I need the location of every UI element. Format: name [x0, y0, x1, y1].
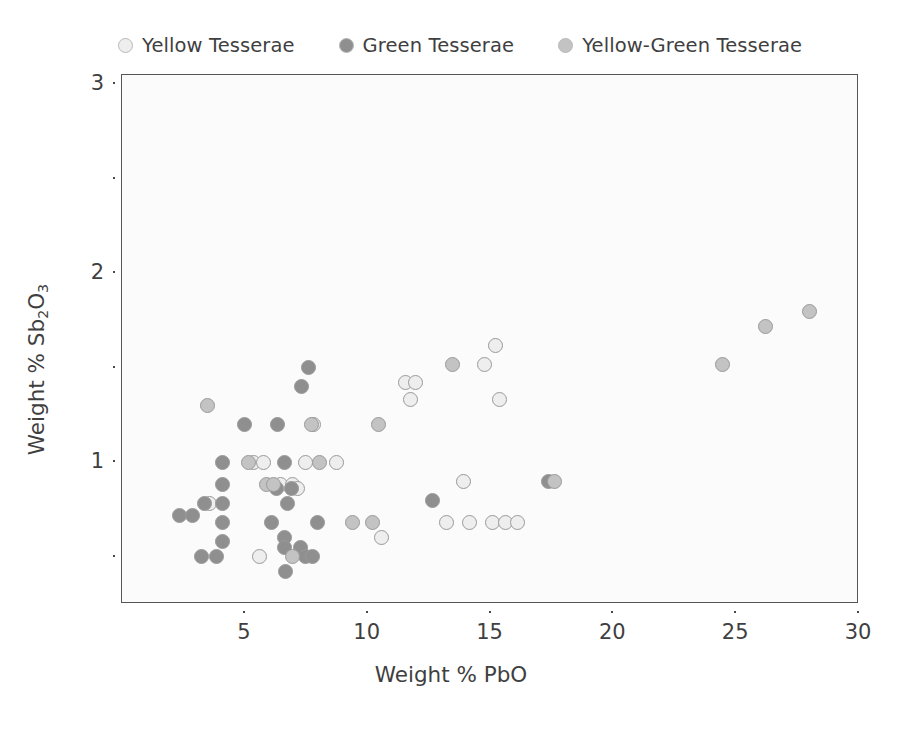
data-point [301, 360, 316, 375]
x-axis-tick-label: 15 [476, 620, 503, 644]
data-point [270, 417, 285, 432]
data-point [264, 515, 279, 530]
x-axis-tick-label: 20 [599, 620, 626, 644]
data-point [456, 474, 471, 489]
data-point [802, 304, 817, 319]
data-point [758, 319, 773, 334]
x-axis-tick-label: 5 [237, 620, 250, 644]
data-point [425, 493, 440, 508]
legend-label: Yellow Tesserae [142, 34, 295, 57]
x-axis-tick [243, 611, 245, 613]
data-point [266, 477, 281, 492]
data-point [185, 508, 200, 523]
chart-legend: Yellow TesseraeGreen TesseraeYellow-Gree… [118, 28, 818, 62]
x-axis-tick [489, 611, 491, 613]
data-point [194, 549, 209, 564]
data-point [241, 455, 256, 470]
data-point [285, 549, 300, 564]
data-point [310, 515, 325, 530]
data-point [547, 474, 562, 489]
legend-marker-icon [558, 38, 573, 53]
legend-entry[interactable]: Green Tesserae [339, 34, 515, 57]
legend-marker-icon [118, 38, 133, 53]
y-axis-tick-label: 3 [91, 71, 104, 95]
data-point [215, 455, 230, 470]
y-axis-tick [113, 177, 115, 179]
x-axis-label: Weight % PbO [0, 662, 902, 687]
scatter-chart-figure: Yellow TesseraeGreen TesseraeYellow-Gree… [0, 0, 902, 738]
x-axis-tick-label: 10 [353, 620, 380, 644]
legend-label: Green Tesserae [363, 34, 515, 57]
data-point [278, 564, 293, 579]
y-axis-tick [113, 366, 115, 368]
y-axis-tick [113, 460, 115, 462]
x-axis-tick-label: 30 [845, 620, 872, 644]
data-point [277, 455, 292, 470]
data-point [408, 375, 423, 390]
data-point [312, 455, 327, 470]
plot-area [122, 75, 857, 602]
y-axis-tick [113, 555, 115, 557]
data-point [477, 357, 492, 372]
data-point [215, 477, 230, 492]
legend-marker-icon [339, 38, 354, 53]
data-point [371, 417, 386, 432]
x-axis-tick [366, 611, 368, 613]
y-axis-tick-label: 1 [91, 449, 104, 473]
legend-label: Yellow-Green Tesserae [582, 34, 802, 57]
data-point [305, 549, 320, 564]
y-axis-label: Weight % Sb2O3 [25, 283, 50, 454]
y-axis-label-wrapper: Weight % Sb2O3 [22, 0, 52, 738]
data-point [445, 357, 460, 372]
x-axis-tick [857, 611, 859, 613]
legend-entry[interactable]: Yellow-Green Tesserae [558, 34, 802, 57]
data-point [237, 417, 252, 432]
x-axis-tick-label: 25 [722, 620, 749, 644]
data-point [304, 417, 319, 432]
data-point [256, 455, 271, 470]
legend-entry[interactable]: Yellow Tesserae [118, 34, 295, 57]
data-point [252, 549, 267, 564]
plot-frame [121, 74, 858, 603]
data-point [439, 515, 454, 530]
data-point [488, 338, 503, 353]
data-point [462, 515, 477, 530]
data-point [294, 379, 309, 394]
data-point [365, 515, 380, 530]
data-point [200, 398, 215, 413]
y-axis-tick-label: 2 [91, 260, 104, 284]
data-point [345, 515, 360, 530]
data-point [215, 515, 230, 530]
y-axis-tick [113, 271, 115, 273]
data-point [209, 549, 224, 564]
data-point [215, 534, 230, 549]
data-point [492, 392, 507, 407]
data-point [510, 515, 525, 530]
data-point [280, 496, 295, 511]
data-point [715, 357, 730, 372]
x-axis-tick [734, 611, 736, 613]
y-axis-tick [113, 82, 115, 84]
data-point [374, 530, 389, 545]
data-point [403, 392, 418, 407]
x-axis-tick [611, 611, 613, 613]
data-point [215, 496, 230, 511]
data-point [298, 455, 313, 470]
data-point [329, 455, 344, 470]
